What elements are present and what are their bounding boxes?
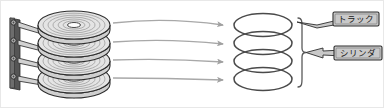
disk-cylinder-figure: トラック シリンダ: [0, 0, 384, 108]
figure-canvas: トラック シリンダ: [1, 1, 384, 108]
callout-cylinder[interactable]: シリンダ: [306, 46, 382, 60]
cylinder-ring: [234, 68, 292, 91]
cylinder-ring: [234, 32, 292, 55]
mapping-arrow: [113, 59, 223, 62]
cylinder-ring: [234, 14, 292, 37]
cylinder-ring: [234, 50, 292, 73]
cylinder-rings: [234, 14, 292, 91]
mapping-arrow: [113, 78, 223, 80]
mapping-arrow: [113, 40, 223, 44]
mapping-arrows: [113, 20, 223, 80]
cylinder-label: シリンダ: [340, 48, 377, 58]
actuator-arm-assembly: [10, 18, 42, 90]
mapping-arrow: [113, 20, 223, 25]
platter: [38, 11, 110, 44]
track-label: トラック: [338, 14, 375, 24]
callout-track[interactable]: トラック: [297, 12, 379, 28]
